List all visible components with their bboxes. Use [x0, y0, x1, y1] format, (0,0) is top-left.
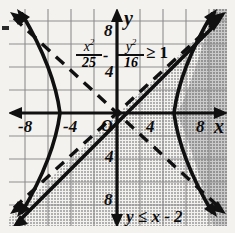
x-tick-4: 4: [146, 118, 155, 135]
hyperbola-term-2-numerator: y2: [118, 38, 144, 54]
y-tick-4: 4: [105, 63, 114, 80]
x-tick-neg4: -4: [63, 118, 77, 135]
graph-figure: y x O -8 -4 4 8 8 4 4 8 x2 25 - y2 16 ≥ …: [0, 0, 235, 233]
y-axis-label: y: [124, 8, 133, 28]
hyperbola-term-1-denominator: 25: [76, 56, 102, 70]
line-inequality-label: y ≤ x - 2: [126, 208, 183, 225]
hyperbola-term-1-numerator: x2: [76, 38, 102, 54]
x-axis-label: x: [214, 116, 224, 136]
hyperbola-minus-sign: -: [103, 48, 108, 64]
hyperbola-relation: ≥ 1: [146, 44, 168, 61]
y-tick-neg8: 8: [104, 191, 113, 208]
hyperbola-term-2: y2 16: [118, 38, 144, 70]
y-tick-8: 8: [104, 22, 113, 39]
origin-label: O: [101, 118, 113, 134]
hyperbola-term-2-denominator: 16: [118, 56, 144, 70]
hyperbola-term-1: x2 25: [76, 38, 102, 70]
y-tick-neg4: 4: [105, 148, 114, 165]
x-tick-neg8: -8: [18, 118, 32, 135]
x-tick-8: 8: [196, 118, 205, 135]
